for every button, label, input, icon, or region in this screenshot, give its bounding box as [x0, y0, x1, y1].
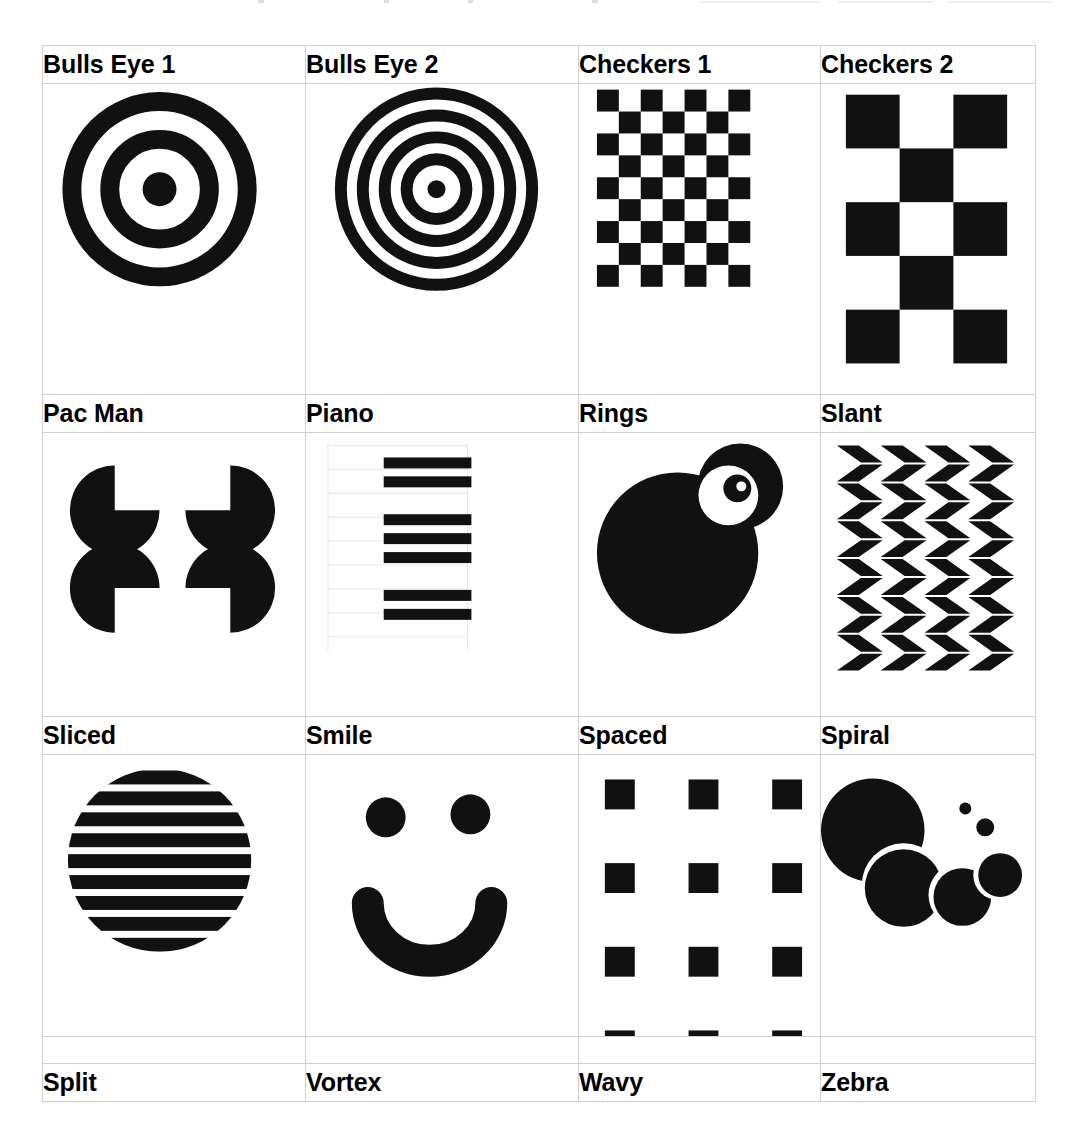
cell-label-zebra: Zebra — [821, 1064, 1036, 1102]
cell-tail-4 — [821, 1037, 1036, 1064]
pattern-grid: Bulls Eye 1 Bulls Eye 2 Checkers 1 Check… — [42, 45, 1036, 1102]
spiral-pattern — [821, 755, 1035, 1036]
pattern-row-1 — [43, 84, 1036, 395]
cell-tail-2 — [306, 1037, 579, 1064]
bulls-eye-1-pattern — [43, 84, 305, 394]
cell-label-wavy: Wavy — [579, 1064, 821, 1102]
cell-label-bulls-eye-1: Bulls Eye 1 — [43, 46, 306, 84]
piano-pattern — [306, 433, 578, 716]
rings-pattern — [579, 433, 820, 716]
cell-label-slant: Slant — [821, 395, 1036, 433]
slant-pattern — [821, 433, 1035, 716]
cell-pattern-piano — [306, 433, 579, 717]
cell-pattern-sliced — [43, 755, 306, 1037]
cell-label-spiral: Spiral — [821, 717, 1036, 755]
bulls-eye-2-pattern — [306, 84, 578, 394]
checkers-2-pattern — [821, 84, 1035, 394]
cell-label-sliced: Sliced — [43, 717, 306, 755]
tail-row — [43, 1037, 1036, 1064]
cell-label-split: Split — [43, 1064, 306, 1102]
cell-label-vortex: Vortex — [306, 1064, 579, 1102]
label-row-4: Split Vortex Wavy Zebra — [43, 1064, 1036, 1102]
smile-pattern — [306, 755, 578, 1036]
cell-pattern-spaced — [579, 755, 821, 1037]
cell-tail-3 — [579, 1037, 821, 1064]
cell-pattern-pac-man — [43, 433, 306, 717]
checkers-1-pattern — [579, 84, 820, 394]
cell-pattern-checkers-2 — [821, 84, 1036, 395]
cell-pattern-bulls-eye-2 — [306, 84, 579, 395]
cell-label-bulls-eye-2: Bulls Eye 2 — [306, 46, 579, 84]
pattern-row-3 — [43, 755, 1036, 1037]
cell-label-smile: Smile — [306, 717, 579, 755]
cell-pattern-smile — [306, 755, 579, 1037]
pattern-sheet: Bulls Eye 1 Bulls Eye 2 Checkers 1 Check… — [42, 45, 1035, 1102]
cell-tail-1 — [43, 1037, 306, 1064]
cell-pattern-spiral — [821, 755, 1036, 1037]
cell-label-piano: Piano — [306, 395, 579, 433]
label-row-1: Bulls Eye 1 Bulls Eye 2 Checkers 1 Check… — [43, 46, 1036, 84]
cell-label-pac-man: Pac Man — [43, 395, 306, 433]
cell-pattern-rings — [579, 433, 821, 717]
cell-pattern-checkers-1 — [579, 84, 821, 395]
cell-label-checkers-2: Checkers 2 — [821, 46, 1036, 84]
spaced-pattern — [579, 755, 820, 1036]
cell-label-spaced: Spaced — [579, 717, 821, 755]
pattern-row-2 — [43, 433, 1036, 717]
cell-pattern-slant — [821, 433, 1036, 717]
top-scan-artifact — [0, 0, 1072, 14]
label-row-3: Sliced Smile Spaced Spiral — [43, 717, 1036, 755]
sliced-pattern — [43, 755, 305, 1036]
cell-pattern-bulls-eye-1 — [43, 84, 306, 395]
cell-label-rings: Rings — [579, 395, 821, 433]
pac-man-pattern — [43, 433, 305, 716]
label-row-2: Pac Man Piano Rings Slant — [43, 395, 1036, 433]
cell-label-checkers-1: Checkers 1 — [579, 46, 821, 84]
